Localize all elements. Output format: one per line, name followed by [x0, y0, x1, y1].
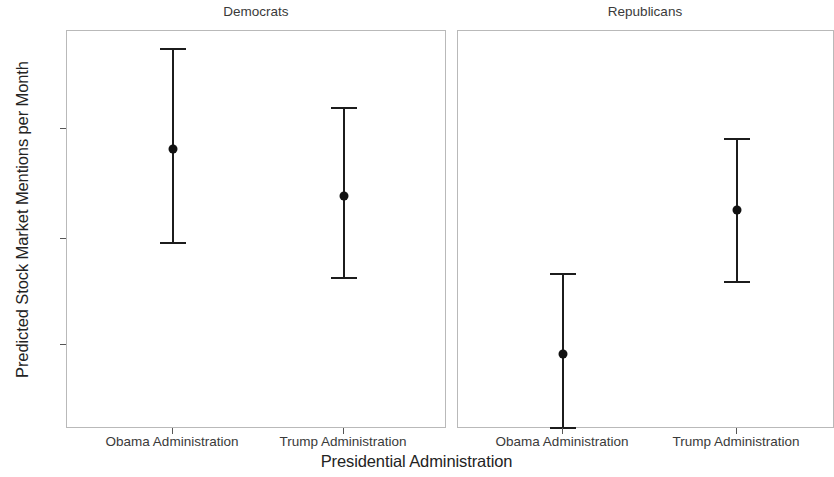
errorbar-cap-lower — [331, 277, 357, 279]
x-tick-label-dem-obama: Obama Administration — [106, 434, 239, 449]
errorbar-cap-lower — [160, 242, 186, 244]
errorbar-cap-upper — [724, 138, 750, 140]
data-point — [733, 206, 742, 215]
y-axis-title: Predicted Stock Market Mentions per Mont… — [13, 10, 32, 430]
errorbar-cap-upper — [160, 48, 186, 50]
x-tick-label-rep-obama: Obama Administration — [496, 434, 629, 449]
data-point — [169, 144, 178, 153]
panel-republicans — [457, 30, 834, 428]
facet-strip-title-democrats: Democrats — [66, 4, 446, 19]
panel-republicans-plot-area — [458, 31, 833, 427]
errorbar-cap-lower — [550, 427, 576, 429]
data-point — [340, 191, 349, 200]
facet-strip-title-republicans: Republicans — [457, 4, 833, 19]
errorbar-cap-upper — [550, 273, 576, 275]
x-tick-label-rep-trump: Trump Administration — [672, 434, 799, 449]
errorbar-cap-upper — [331, 107, 357, 109]
panel-democrats-plot-area — [67, 31, 445, 427]
x-axis-title: Presidential Administration — [0, 452, 833, 471]
x-tick-label-dem-trump: Trump Administration — [279, 434, 406, 449]
panel-democrats — [66, 30, 446, 428]
errorbar-cap-lower — [724, 281, 750, 283]
data-point — [559, 349, 568, 358]
